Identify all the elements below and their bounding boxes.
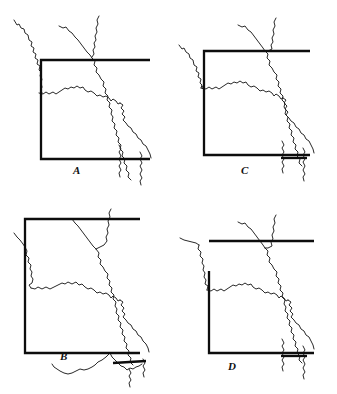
overlay-box-d: [209, 241, 314, 353]
map-outline-c: [179, 18, 314, 181]
map-outline-b: [14, 209, 149, 387]
panel-d: [168, 197, 336, 394]
map-outline-d: [180, 215, 314, 379]
four-panel-map-figure: A C: [0, 0, 337, 394]
panel-label-d: D: [228, 360, 236, 372]
panel-label-b: B: [60, 350, 67, 362]
panel-label-c: C: [241, 164, 248, 176]
overlay-box-a: [41, 60, 150, 159]
panel-b: [0, 197, 168, 394]
panel-label-a: A: [73, 164, 80, 176]
panel-a: [0, 0, 168, 197]
panel-c: [168, 0, 336, 197]
